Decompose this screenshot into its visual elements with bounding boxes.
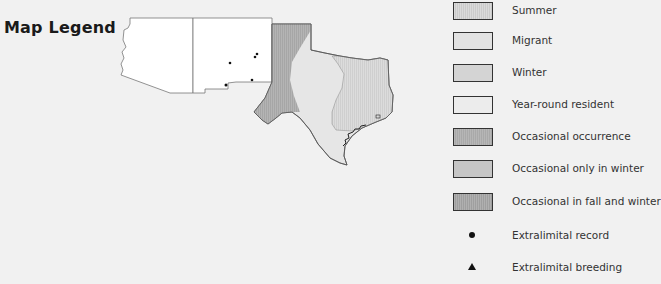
year-round-swatch (453, 96, 493, 114)
legend-item-winter: Winter (453, 64, 648, 86)
occasional-winter-swatch (453, 160, 493, 178)
occasional-occurrence-swatch (453, 128, 493, 146)
legend-label: Year-round resident (512, 98, 614, 110)
occasional-fall-winter-swatch (453, 193, 493, 211)
legend-item-extralimital-record: Extralimital record (453, 227, 648, 249)
extralimital-record-dot (251, 79, 254, 82)
extralimital-record-dot (225, 84, 228, 87)
texas-summer-zone (332, 56, 393, 131)
dot-icon (469, 232, 475, 238)
legend-label: Winter (512, 66, 547, 78)
extralimital-record-dot (254, 56, 257, 59)
legend-item-migrant: Migrant (453, 32, 648, 54)
triangle-icon (468, 263, 476, 270)
legend-label: Extralimital breeding (512, 261, 622, 273)
new-mexico-region (193, 18, 272, 93)
extralimital-record-dot (256, 53, 259, 56)
legend-label: Occasional in fall and winter (512, 195, 661, 207)
legend-label: Occasional only in winter (512, 162, 644, 174)
legend-label: Migrant (512, 34, 552, 46)
arizona-region (121, 18, 193, 93)
extralimital-record-dot (229, 62, 232, 65)
legend-item-summer: Summer (453, 2, 648, 24)
legend-item-extralimital-breeding: Extralimital breeding (453, 259, 648, 281)
legend-label: Extralimital record (512, 229, 609, 241)
legend-item-occasional-occurrence: Occasional occurrence (453, 128, 648, 150)
legend-item-occasional-only-in-winter: Occasional only in winter (453, 160, 648, 182)
legend-item-year-round-resident: Year-round resident (453, 96, 648, 118)
legend-item-occasional-fall-winter: Occasional in fall and winter (453, 193, 648, 215)
winter-swatch (453, 64, 493, 82)
legend-label: Occasional occurrence (512, 130, 631, 142)
range-map (0, 0, 440, 284)
legend-label: Summer (512, 4, 557, 16)
migrant-swatch (453, 32, 493, 50)
summer-swatch (453, 2, 493, 20)
